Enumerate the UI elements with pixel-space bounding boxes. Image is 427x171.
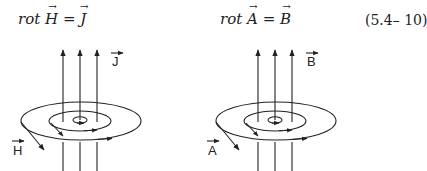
label-h: H — [13, 143, 22, 158]
field-tangent-arrow — [21, 122, 44, 150]
diagram-current-field-left — [12, 50, 141, 171]
loop-arrow-middle — [84, 130, 97, 131]
loop-arrow-middle — [279, 130, 292, 131]
label-a: A — [208, 143, 217, 158]
label-b: B — [307, 54, 316, 69]
field-tangent-arrow — [216, 122, 239, 150]
label-j: J — [112, 54, 119, 69]
field-loop-outer — [21, 102, 141, 140]
diagram-current-field-right — [207, 50, 336, 171]
loop-arrow-outer — [291, 139, 307, 140]
field-loop-outer — [216, 102, 336, 140]
diagrams-canvas: J H B A — [0, 0, 427, 171]
loop-arrow-outer — [96, 139, 112, 140]
